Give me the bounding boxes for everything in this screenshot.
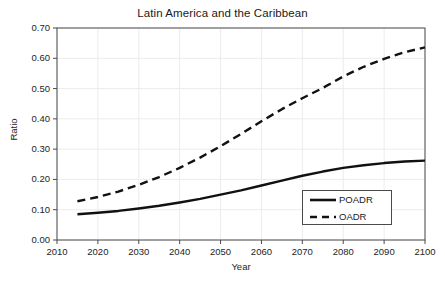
series-line-oadr [77, 47, 425, 201]
chart-container: Latin America and the Caribbean 0.000.10… [0, 0, 445, 282]
legend-item-poadr: POADR [303, 191, 393, 208]
y-tick-label: 0.70 [6, 22, 50, 33]
legend-swatch-dashed-icon [308, 211, 338, 223]
legend-label-poadr: POADR [339, 194, 373, 205]
x-axis-title: Year [57, 261, 425, 272]
y-axis-title: Ratio [8, 100, 19, 160]
y-tick-label: 0.00 [6, 234, 50, 245]
x-tick-label: 2100 [401, 246, 445, 257]
plot-area [0, 0, 445, 282]
y-tick-label: 0.50 [6, 83, 50, 94]
y-tick-label: 0.10 [6, 204, 50, 215]
y-tick-label: 0.20 [6, 173, 50, 184]
legend-label-oadr: OADR [339, 211, 366, 222]
legend-item-oadr: OADR [303, 208, 393, 225]
legend-swatch-solid-icon [308, 194, 338, 206]
y-tick-label: 0.60 [6, 52, 50, 63]
chart-legend: POADR OADR [302, 190, 392, 225]
